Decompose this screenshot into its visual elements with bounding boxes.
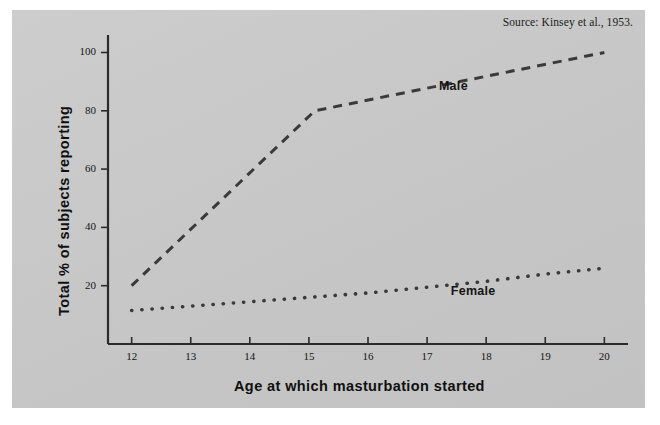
x-tick-label: 13 [175,350,207,362]
data-series-line [132,268,605,310]
chart-panel: Source: Kinsey et al., 1953. 20406080100… [12,10,645,408]
x-tick-label: 18 [470,350,502,362]
x-tick-label: 17 [411,350,443,362]
x-tick-label: 12 [116,350,148,362]
data-series-group [132,52,605,310]
x-axis-title: Age at which masturbation started [234,378,485,394]
y-tick-label: 100 [62,45,96,57]
figure-canvas: Source: Kinsey et al., 1953. 20406080100… [0,0,660,425]
x-tick-label: 15 [293,350,325,362]
x-tick-label: 20 [588,350,620,362]
data-series-line [132,52,605,285]
series-label-female: Female [451,284,496,298]
axes-group [101,35,628,344]
y-axis-title: Total % of subjects reporting [56,106,72,316]
x-tick-label: 19 [529,350,561,362]
x-tick-label: 16 [352,350,384,362]
x-tick-label: 14 [234,350,266,362]
chart-plot-area [12,10,645,408]
series-label-male: Male [439,79,468,93]
